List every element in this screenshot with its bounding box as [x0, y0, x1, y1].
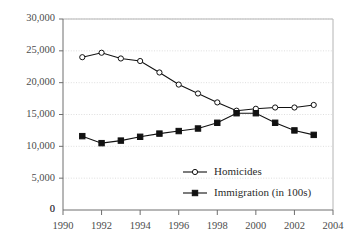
y-tick-label: 20,000: [26, 76, 55, 87]
data-point-marker: [253, 111, 258, 116]
x-tick-label: 1994: [130, 220, 152, 231]
x-tick-label: 2004: [323, 220, 345, 231]
y-tick-label: 5,000: [31, 172, 55, 183]
data-point-marker: [118, 56, 123, 61]
y-axis-zero-label: 0: [50, 203, 55, 214]
y-axis-ticks: [59, 19, 63, 178]
chart-figure: 05,00010,00015,00020,00025,00030,0000 19…: [0, 0, 348, 243]
data-point-marker: [176, 82, 181, 87]
data-point-marker: [195, 126, 200, 131]
legend-sample-marker: [192, 190, 197, 195]
data-point-marker: [118, 138, 123, 143]
x-tick-label: 1996: [168, 220, 189, 231]
data-point-marker: [311, 102, 316, 107]
y-tick-label: 25,000: [26, 44, 55, 55]
data-point-marker: [80, 55, 85, 60]
y-axis-tick-labels: 05,00010,00015,00020,00025,00030,0000: [26, 12, 55, 214]
y-tick-label: 30,000: [26, 12, 55, 23]
x-tick-label: 2002: [284, 220, 305, 231]
data-point-marker: [195, 91, 200, 96]
data-point-marker: [80, 133, 85, 138]
data-point-marker: [157, 70, 162, 75]
y-tick-label: 10,000: [26, 140, 55, 151]
line-chart-canvas: 05,00010,00015,00020,00025,00030,0000 19…: [0, 0, 348, 243]
data-point-marker: [99, 140, 104, 145]
data-point-marker: [292, 128, 297, 133]
x-axis-tick-labels: 19901992199419961998200020022004: [53, 220, 345, 231]
legend-sample-marker: [192, 169, 197, 174]
x-tick-label: 1992: [91, 220, 112, 231]
data-point-marker: [272, 120, 277, 125]
data-point-marker: [99, 50, 104, 55]
data-point-marker: [137, 134, 142, 139]
legend-label: Immigration (in 100s): [214, 186, 311, 199]
data-point-marker: [215, 100, 220, 105]
x-tick-label: 2000: [245, 220, 266, 231]
data-point-marker: [292, 105, 297, 110]
data-point-marker: [157, 131, 162, 136]
data-point-marker: [273, 105, 278, 110]
x-tick-label: 1990: [53, 220, 74, 231]
x-tick-label: 1998: [207, 220, 228, 231]
y-tick-label: 15,000: [26, 108, 55, 119]
data-point-marker: [176, 128, 181, 133]
data-point-marker: [138, 58, 143, 63]
data-point-marker: [311, 132, 316, 137]
legend-label: Homicides: [214, 165, 262, 177]
data-point-marker: [215, 120, 220, 125]
data-point-marker: [234, 111, 239, 116]
